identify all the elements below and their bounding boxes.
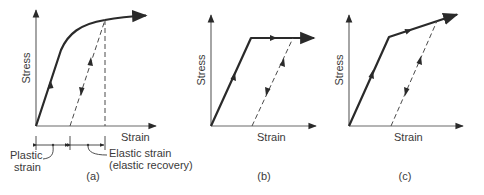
elastic-recovery-line (70, 20, 105, 126)
panel-caption: (c) (399, 170, 412, 182)
panel-a: Stress Strain Plastic strain Elastic str… (10, 10, 193, 182)
panel-c: Stress Strain (c) (333, 15, 463, 183)
dim-dot (87, 144, 89, 146)
elastic-recovery-line (391, 21, 437, 126)
panel-caption: (a) (86, 170, 99, 182)
plastic-strain-label: Plastic (10, 149, 43, 161)
x-axis-label: Strain (257, 131, 286, 143)
panel-caption: (b) (257, 170, 270, 182)
plastic-leader (43, 146, 53, 159)
elastic-leader (88, 146, 107, 155)
loading-direction-arrow-icon (48, 80, 54, 89)
y-axis-label: Stress (20, 52, 32, 84)
stress-strain-curve (36, 16, 146, 127)
x-axis-label: Strain (394, 131, 423, 143)
dim-dot (52, 144, 54, 146)
stress-strain-curve (349, 15, 457, 127)
stress-strain-curve (211, 38, 314, 126)
hardening-direction-arrow-icon (405, 29, 413, 35)
y-axis-label: Stress (195, 54, 207, 86)
y-axis-label: Stress (333, 54, 345, 86)
elastic-recovery-line (252, 38, 293, 126)
plastic-strain-label-2: strain (14, 161, 41, 173)
stress-strain-figure: Stress Strain Plastic strain Elastic str… (0, 0, 484, 195)
elastic-strain-label: Elastic strain (109, 147, 171, 159)
x-axis-label: Strain (121, 131, 150, 143)
panel-b: Stress Strain (b) (195, 15, 316, 182)
reloading-arrow-icon (88, 57, 94, 66)
yield-direction-arrow-icon (270, 35, 277, 41)
elastic-strain-label-2: (elastic recovery) (109, 159, 193, 171)
